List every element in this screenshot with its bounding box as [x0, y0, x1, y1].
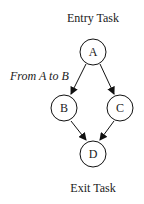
- node-c: C: [107, 95, 133, 121]
- edge-a-c: [100, 64, 114, 94]
- edge-c-d: [100, 121, 114, 140]
- node-b: B: [51, 95, 77, 121]
- task-graph: Entry Task From A to B A B C D Exit Task: [0, 0, 144, 204]
- exit-task-label: Exit Task: [70, 181, 115, 195]
- node-a-label: A: [89, 45, 98, 59]
- node-c-label: C: [116, 101, 124, 115]
- entry-task-label: Entry Task: [67, 11, 119, 25]
- node-d-label: D: [89, 147, 98, 161]
- edge-label-a-b: From A to B: [9, 69, 69, 83]
- node-d: D: [80, 141, 106, 167]
- node-b-label: B: [60, 101, 68, 115]
- edge-b-d: [71, 121, 86, 140]
- edge-a-b: [71, 64, 86, 94]
- node-a: A: [80, 39, 106, 65]
